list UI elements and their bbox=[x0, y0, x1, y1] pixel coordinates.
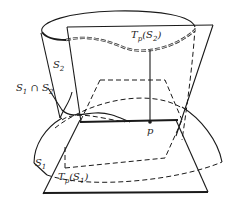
point-p bbox=[148, 120, 152, 124]
label-s2: S2 bbox=[53, 59, 65, 73]
surfaces-tangent-planes-diagram: S2 S1 ∩ S2 Tp(S2) p S1 Tp(S1) bbox=[0, 0, 234, 204]
label-tp-s1: Tp(S1) bbox=[58, 171, 88, 185]
label-s1-cap-s2: S1 ∩ S2 bbox=[16, 82, 54, 96]
intersection-curve bbox=[48, 88, 130, 122]
label-tp-s2: Tp(S2) bbox=[131, 29, 161, 43]
label-p: p bbox=[147, 125, 154, 136]
tangent-region-dashed bbox=[55, 80, 182, 168]
